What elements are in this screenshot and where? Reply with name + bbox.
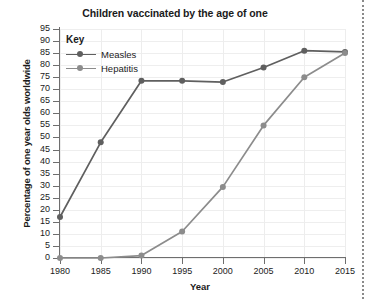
data-point xyxy=(179,78,185,84)
data-point xyxy=(138,253,144,259)
data-point xyxy=(57,255,63,261)
data-point xyxy=(98,139,104,145)
legend-item-measles: Measles xyxy=(66,47,186,61)
data-point xyxy=(261,65,267,71)
data-point xyxy=(261,122,267,128)
legend-label: Measles xyxy=(96,49,136,60)
legend-marker-icon xyxy=(66,49,96,59)
data-point xyxy=(220,184,226,190)
legend-item-hepatitis: Hepatitis xyxy=(66,61,186,75)
chart-figure: Children vaccinated by the age of one Pe… xyxy=(0,0,367,299)
data-point xyxy=(301,48,307,54)
legend-title: Key xyxy=(66,34,186,45)
legend: Key MeaslesHepatitis xyxy=(66,34,186,75)
data-point xyxy=(301,74,307,80)
legend-label: Hepatitis xyxy=(96,63,138,74)
legend-marker-icon xyxy=(66,63,96,73)
series-line xyxy=(60,53,345,258)
data-point xyxy=(179,228,185,234)
data-point xyxy=(57,214,63,220)
data-point xyxy=(138,78,144,84)
legend-entries: MeaslesHepatitis xyxy=(66,47,186,75)
data-point xyxy=(98,255,104,261)
data-point xyxy=(220,79,226,85)
data-point xyxy=(342,50,348,56)
